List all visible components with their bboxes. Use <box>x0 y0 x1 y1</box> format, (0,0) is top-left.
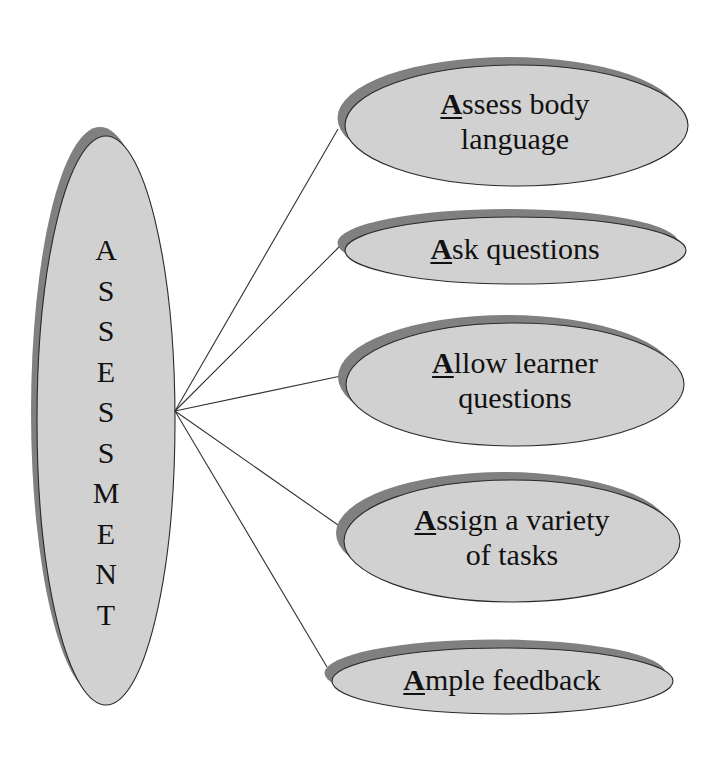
branch-text: mple feedback <box>425 663 601 696</box>
connector-lines <box>175 129 341 667</box>
connector-1 <box>175 129 338 411</box>
branch-label-2-line1: Ask questions <box>365 232 665 267</box>
initial-letter: A <box>430 232 452 265</box>
center-letter: S <box>86 433 126 474</box>
branch-label-4-line2: of tasks <box>362 538 662 573</box>
center-letter: S <box>86 392 126 433</box>
initial-letter: A <box>440 87 462 120</box>
center-letter: A <box>86 230 126 271</box>
center-letter: E <box>86 514 126 555</box>
center-letter: M <box>86 473 126 514</box>
branch-label-3-line2: questions <box>365 381 665 416</box>
branch-label-5: Ample feedback <box>352 663 652 698</box>
branch-label-1: Assess body language <box>365 87 665 156</box>
branch-text: ssign a variety <box>436 503 609 536</box>
branch-label-4: Assign a variety of tasks <box>362 503 662 572</box>
center-letter: S <box>86 311 126 352</box>
branch-label-4-line1: Assign a variety <box>362 503 662 538</box>
connector-3 <box>175 376 341 411</box>
initial-letter: A <box>403 663 425 696</box>
center-letter: T <box>86 595 126 636</box>
branch-label-2: Ask questions <box>365 232 665 267</box>
center-letter: N <box>86 554 126 595</box>
branch-text: sk questions <box>452 232 600 265</box>
branch-text: ssess body <box>462 87 590 120</box>
connector-5 <box>175 411 327 667</box>
center-letter: S <box>86 271 126 312</box>
branch-label-3: Allow learner questions <box>365 346 665 415</box>
branch-label-3-line1: Allow learner <box>365 346 665 381</box>
center-letter: E <box>86 352 126 393</box>
branch-text: llow learner <box>454 346 598 379</box>
initial-letter: A <box>432 346 454 379</box>
initial-letter: A <box>415 503 437 536</box>
connector-2 <box>175 246 340 411</box>
branch-label-1-line1: Assess body <box>365 87 665 122</box>
center-node-label: A S S E S S M E N T <box>86 230 126 635</box>
branch-label-5-line1: Ample feedback <box>352 663 652 698</box>
connector-4 <box>175 411 338 525</box>
branch-label-1-line2: language <box>365 122 665 157</box>
